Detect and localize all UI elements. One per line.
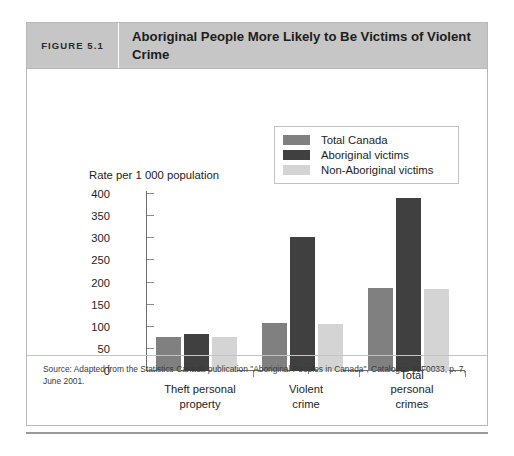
y-axis-title: Rate per 1 000 population [89, 169, 219, 181]
legend-swatch-icon [283, 135, 310, 145]
y-axis-tick-label: 100 [91, 321, 110, 333]
y-axis-tick-label: 300 [91, 232, 110, 244]
figure-title: Aboriginal People More Likely to Be Vict… [119, 23, 487, 68]
y-axis-tick [147, 348, 154, 349]
y-axis-tick [147, 259, 154, 260]
figure-container: FIGURE 5.1 Aboriginal People More Likely… [26, 22, 488, 426]
y-axis-tick [147, 326, 154, 327]
y-axis-tick-label: 50 [98, 343, 110, 355]
bottom-rule [26, 432, 488, 434]
y-axis-tick [147, 237, 154, 238]
y-axis-tick-label: 350 [91, 210, 110, 222]
chart-body: Total CanadaAboriginal victimsNon-Aborig… [27, 69, 487, 391]
legend-label: Aboriginal victims [321, 149, 409, 161]
legend-item: Total Canada [283, 132, 450, 147]
y-axis-tick-label: 250 [91, 254, 110, 266]
y-axis-tick [147, 215, 154, 216]
legend-item: Non-Aboriginal victims [283, 162, 450, 177]
figure-header: FIGURE 5.1 Aboriginal People More Likely… [27, 23, 487, 69]
y-axis-tick [147, 304, 154, 305]
figure-number-label: FIGURE 5.1 [27, 23, 119, 68]
y-axis-tick-label: 400 [91, 188, 110, 200]
legend-item: Aboriginal victims [283, 147, 450, 162]
source-note: Source: Adapted from the Statistics Cana… [27, 355, 487, 391]
y-axis-tick [147, 282, 154, 283]
bar [396, 198, 421, 371]
legend-label: Non-Aboriginal victims [321, 164, 433, 176]
y-axis-tick-label: 150 [91, 299, 110, 311]
y-axis-tick-label: 200 [91, 277, 110, 289]
y-axis-tick [147, 193, 154, 194]
legend-swatch-icon [283, 165, 310, 175]
chart-legend: Total CanadaAboriginal victimsNon-Aborig… [274, 126, 459, 184]
legend-label: Total Canada [321, 134, 388, 146]
bar [290, 237, 315, 371]
legend-swatch-icon [283, 150, 310, 160]
